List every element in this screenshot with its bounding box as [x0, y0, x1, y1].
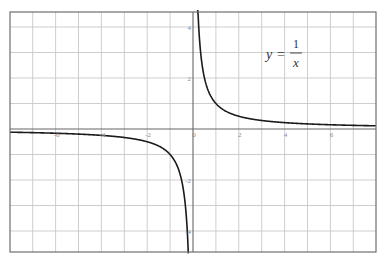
x-tick-label: 2 — [238, 131, 242, 139]
x-tick-label: -2 — [145, 131, 151, 139]
reciprocal-function-chart: -6-4-20246-4-224 y = 1 x — [0, 0, 386, 260]
y-tick-label: -4 — [185, 228, 191, 236]
formula-equals: = — [277, 47, 285, 62]
x-tick-label: -4 — [99, 131, 105, 139]
function-annotation: y = 1 x — [264, 37, 302, 70]
formula-denominator: x — [292, 55, 299, 70]
x-tick-label: 0 — [192, 131, 196, 139]
y-tick-label: 4 — [188, 24, 192, 32]
x-tick-label: 4 — [284, 131, 288, 139]
y-tick-label: -2 — [185, 177, 191, 185]
y-tick-label: 2 — [188, 75, 192, 83]
x-tick-label: 6 — [330, 131, 334, 139]
formula-numerator: 1 — [293, 37, 299, 51]
formula-lhs: y — [264, 47, 273, 62]
x-tick-label: -6 — [54, 131, 60, 139]
curve-negative-branch — [10, 132, 188, 253]
